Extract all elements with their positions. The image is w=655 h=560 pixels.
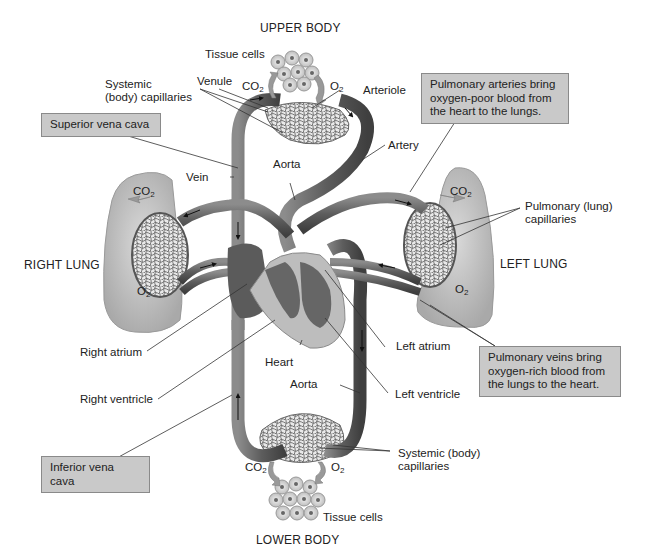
tissue-cells-upper — [271, 51, 319, 92]
callout-pulmonary-arteries-line-2: oxygen-poor blood from — [430, 92, 560, 106]
gas-co2-left-lung: CO2 — [450, 185, 472, 199]
region-right-lung: RIGHT LUNG — [24, 259, 100, 272]
heart-shape — [228, 243, 346, 348]
label-right-atrium: Right atrium — [80, 346, 142, 359]
label-systemic-capillaries-top-1: Systemic — [105, 78, 152, 91]
callout-pulmonary-veins: Pulmonary veins bring oxygen-rich blood … — [479, 346, 621, 397]
callout-pulmonary-veins-line-2: oxygen-rich blood from — [488, 365, 612, 379]
gas-co2-right-lung: CO2 — [133, 185, 155, 199]
label-tissue-cells-bottom: Tissue cells — [323, 511, 383, 524]
label-systemic-capillaries-bottom-1: Systemic (body) — [398, 447, 480, 460]
callout-pulmonary-arteries: Pulmonary arteries bring oxygen-poor blo… — [421, 73, 569, 124]
label-vein: Vein — [186, 171, 208, 184]
label-artery: Artery — [388, 139, 419, 152]
label-arteriole: Arteriole — [363, 84, 406, 97]
label-aorta-top: Aorta — [273, 158, 301, 171]
gas-o2-lower: O2 — [331, 461, 344, 475]
callout-pulmonary-veins-line-1: Pulmonary veins bring — [488, 351, 612, 365]
region-upper-body: UPPER BODY — [260, 22, 341, 35]
upper-capillary-bed — [265, 103, 349, 145]
region-left-lung: LEFT LUNG — [500, 258, 568, 271]
label-systemic-capillaries-bottom-2: capillaries — [398, 460, 449, 473]
label-systemic-capillaries-top-2: (body) capillaries — [105, 91, 192, 104]
label-pulmonary-capillaries-1: Pulmonary (lung) — [525, 200, 613, 213]
label-tissue-cells-top: Tissue cells — [205, 48, 265, 61]
label-aorta-bottom: Aorta — [290, 378, 318, 391]
gas-co2-upper: CO2 — [242, 80, 264, 94]
gas-co2-lower: CO2 — [245, 461, 267, 475]
label-pulmonary-capillaries-2: capillaries — [525, 213, 576, 226]
region-lower-body: LOWER BODY — [256, 534, 339, 547]
label-heart: Heart — [265, 356, 293, 369]
callout-pulmonary-arteries-line-1: Pulmonary arteries bring — [430, 78, 560, 92]
callout-inferior-vena-cava: Inferior vena cava — [41, 456, 150, 493]
gas-o2-right-lung: O2 — [137, 285, 150, 299]
callout-pulmonary-arteries-line-3: the heart to the lungs. — [430, 105, 560, 119]
gas-o2-upper: O2 — [330, 80, 343, 94]
label-left-atrium: Left atrium — [396, 340, 450, 353]
gas-o2-left-lung: O2 — [455, 283, 468, 297]
callout-superior-vena-cava: Superior vena cava — [41, 113, 161, 137]
label-right-ventricle: Right ventricle — [80, 393, 153, 406]
callout-pulmonary-veins-line-3: the lungs to the heart. — [488, 378, 612, 392]
label-venule: Venule — [197, 75, 232, 88]
label-left-ventricle: Left ventricle — [395, 388, 460, 401]
